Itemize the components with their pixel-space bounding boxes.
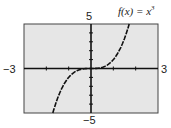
y-min-label: −5 [83, 115, 96, 126]
x-min-label: −3 [3, 64, 16, 75]
function-label: f(x) = x3 [118, 4, 155, 17]
y-max-label: 5 [86, 11, 92, 22]
x-max-label: 3 [161, 64, 167, 75]
